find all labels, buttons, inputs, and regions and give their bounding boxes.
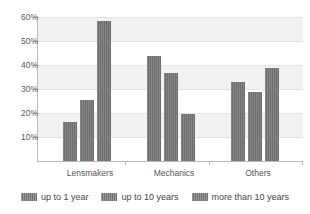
background-band bbox=[37, 17, 303, 41]
bar-others-up-to-10-years bbox=[248, 92, 262, 161]
chart-legend: up to 1 year up to 10 years more than 10… bbox=[0, 192, 310, 202]
y-axis-label-30: 30% bbox=[4, 85, 38, 94]
legend-item-more-than-10-years[interactable]: more than 10 years bbox=[192, 192, 290, 202]
bar-lensmakers-up-to-1-year bbox=[63, 122, 77, 161]
bar-mechanics-more-than-10-years bbox=[181, 114, 195, 161]
legend-label: up to 10 years bbox=[121, 192, 178, 202]
bar-others-up-to-1-year bbox=[231, 82, 245, 161]
chart-title bbox=[14, 0, 304, 5]
y-axis-label-40: 40% bbox=[4, 61, 38, 70]
legend-label: up to 1 year bbox=[41, 192, 89, 202]
y-axis-label-50: 50% bbox=[4, 37, 38, 46]
gridline bbox=[37, 65, 303, 66]
bar-lensmakers-more-than-10-years bbox=[97, 21, 111, 161]
x-axis-separator bbox=[302, 161, 303, 165]
legend-item-up-to-1-year[interactable]: up to 1 year bbox=[21, 192, 89, 202]
x-axis-label-others: Others bbox=[218, 168, 298, 178]
legend-swatch-icon bbox=[101, 193, 117, 201]
x-axis-separator bbox=[209, 161, 210, 165]
bar-others-more-than-10-years bbox=[265, 68, 279, 161]
bar-mechanics-up-to-10-years bbox=[164, 73, 178, 161]
plot-area bbox=[37, 17, 303, 161]
legend-item-up-to-10-years[interactable]: up to 10 years bbox=[101, 192, 178, 202]
legend-label: more than 10 years bbox=[212, 192, 290, 202]
gridline bbox=[37, 41, 303, 42]
legend-swatch-icon bbox=[21, 193, 37, 201]
x-axis-separator bbox=[125, 161, 126, 165]
y-axis-label-10: 10% bbox=[4, 133, 38, 142]
x-axis-line bbox=[37, 161, 303, 162]
bar-lensmakers-up-to-10-years bbox=[80, 100, 94, 161]
x-axis-label-mechanics: Mechanics bbox=[134, 168, 214, 178]
legend-swatch-icon bbox=[192, 193, 208, 201]
x-axis-label-lensmakers: Lensmakers bbox=[50, 168, 130, 178]
y-axis-label-20: 20% bbox=[4, 109, 38, 118]
bar-chart: 60% 50% 40% 30% 20% 10% Lensmakers Mecha… bbox=[0, 0, 310, 214]
bar-mechanics-up-to-1-year bbox=[147, 56, 161, 161]
y-axis-label-60: 60% bbox=[4, 13, 38, 22]
gridline bbox=[37, 17, 303, 18]
